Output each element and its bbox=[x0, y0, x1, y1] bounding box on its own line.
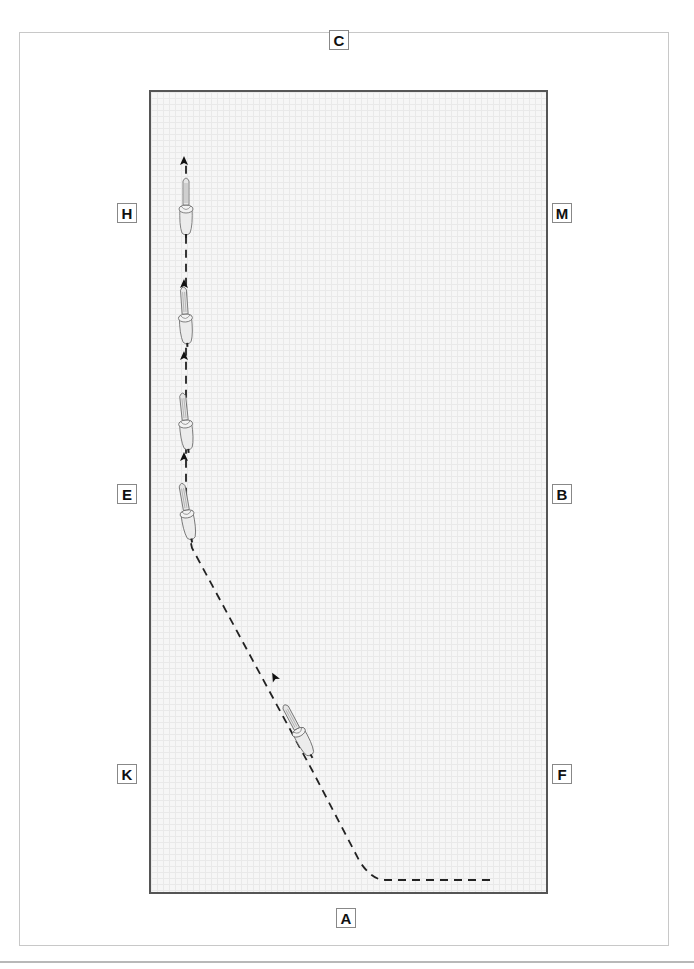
direction-arrow-icon bbox=[180, 156, 188, 165]
horse-rider-icon bbox=[176, 287, 194, 348]
horse-rider-icon bbox=[175, 392, 195, 453]
direction-arrow-icon bbox=[269, 671, 280, 683]
track-path bbox=[186, 165, 490, 880]
figure-overlay bbox=[0, 0, 694, 969]
horse-rider-icon bbox=[278, 702, 319, 762]
horse-rider-icon bbox=[179, 178, 193, 238]
